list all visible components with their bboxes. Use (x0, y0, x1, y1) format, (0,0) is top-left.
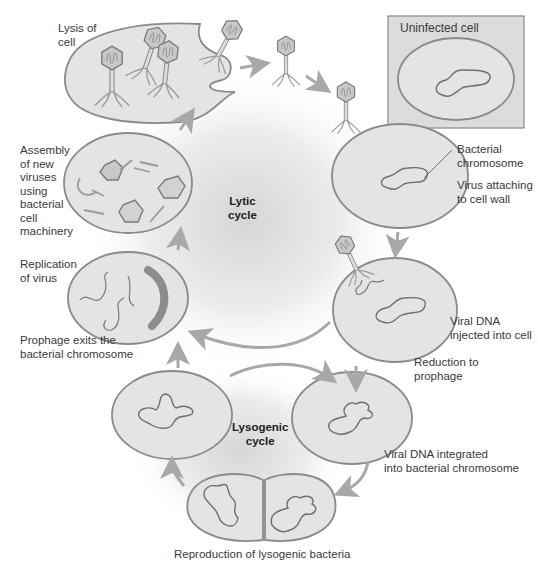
label-bacterial-chromosome: Bacterial chromosome (457, 143, 523, 170)
label-virus-attaching: Virus attaching to cell wall (457, 179, 533, 206)
assembly-cell (64, 133, 192, 233)
diagram-artwork (0, 0, 538, 566)
label-viral-dna-injected: Viral DNA injected into cell (450, 315, 532, 342)
label-reduction-to-prophage: Reduction to prophage (414, 356, 479, 383)
replication-cell (68, 252, 188, 344)
label-prophage-exits: Prophage exits the bacterial chromosome (20, 334, 133, 361)
label-assembly: Assembly of new viruses using bacterial … (20, 144, 73, 239)
label-lytic-cycle: Lytic cycle (228, 194, 257, 222)
label-reproduction: Reproduction of lysogenic bacteria (174, 548, 350, 562)
viral-cycle-diagram: Lysis of cell Uninfected cell Bacterial … (0, 0, 538, 566)
label-viral-dna-integrated: Viral DNA integrated into bacterial chro… (384, 448, 519, 475)
label-lysis: Lysis of cell (58, 22, 97, 49)
label-replication: Replication of virus (20, 258, 77, 285)
label-uninfected-cell: Uninfected cell (400, 22, 479, 36)
prophage-exit-cell (112, 371, 232, 459)
dividing-cell (187, 474, 335, 541)
label-lysogenic-cycle: Lysogenic cycle (232, 420, 288, 448)
